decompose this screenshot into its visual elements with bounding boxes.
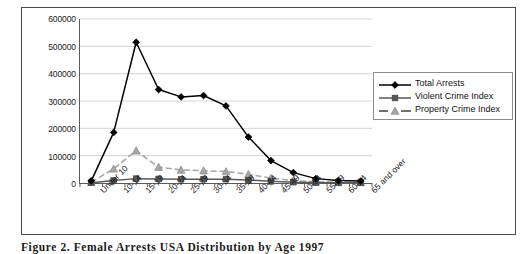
plot-area: [79, 19, 372, 184]
legend-key-diamond-icon: [378, 77, 412, 89]
y-axis-tick-label: 400000: [48, 69, 76, 79]
y-axis-tick-label: 600000: [48, 14, 76, 24]
legend-key-triangle-icon: [378, 103, 412, 115]
x-axis-tick-label: 40-44: [256, 188, 263, 195]
x-axis-tick-label: 55-59: [324, 188, 331, 195]
x-axis-tick-label: Under 10: [98, 188, 105, 195]
data-series-layer: [80, 19, 372, 183]
x-axis-tick-labels: Under 1010-1415-1920-2425-2930-3435-3940…: [79, 184, 379, 232]
y-axis-tick-label: 500000: [48, 42, 76, 52]
x-axis-tick-label: 60-64: [346, 188, 353, 195]
figure-container: 0100000200000300000400000500000600000 Un…: [0, 0, 527, 254]
y-axis-tick-label: 200000: [48, 124, 76, 134]
legend-label: Property Crime Index: [415, 104, 500, 114]
legend-key-square-icon: [378, 90, 412, 102]
x-axis-tick-label: 45-49: [279, 188, 286, 195]
legend-label: Violent Crime Index: [415, 91, 493, 101]
figure-caption: Figure 2. Female Arrests USA Distributio…: [21, 241, 324, 253]
x-axis-tick-label: 35-39: [234, 188, 241, 195]
chart-frame: 0100000200000300000400000500000600000 Un…: [21, 7, 516, 235]
legend-item-total-arrests: Total Arrests: [378, 76, 508, 89]
x-axis-tick-label: 65 and over: [369, 188, 376, 195]
y-axis-tick-label: 100000: [48, 152, 76, 162]
x-axis-tick-label: 15-19: [143, 188, 150, 195]
y-axis-tick-label: 0: [71, 179, 76, 189]
x-axis-tick-label: 30-34: [211, 188, 218, 195]
x-axis-tick-label: 25-29: [188, 188, 195, 195]
legend-item-property-crime-index: Property Crime Index: [378, 102, 508, 115]
legend-label: Total Arrests: [415, 78, 465, 88]
x-axis-tick-label: 20-24: [166, 188, 173, 195]
y-axis-tick-labels: 0100000200000300000400000500000600000: [19, 19, 76, 184]
chart-legend: Total Arrests Violent Crime Index Proper…: [373, 72, 513, 120]
x-axis-tick-label: 10-14: [121, 188, 128, 195]
legend-item-violent-crime-index: Violent Crime Index: [378, 89, 508, 102]
y-axis-tick-label: 300000: [48, 97, 76, 107]
x-axis-tick-label: 50-54: [301, 188, 308, 195]
